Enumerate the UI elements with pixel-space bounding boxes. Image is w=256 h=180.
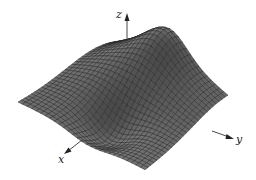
surface-mesh <box>18 27 228 170</box>
x-axis-line <box>68 140 82 151</box>
surface-plot-canvas <box>0 0 256 180</box>
x-axis-label: x <box>58 154 64 165</box>
z-axis-arrowhead-icon <box>125 13 130 21</box>
surface-plot-figure: z y x <box>0 0 256 180</box>
x-axis-arrowhead-icon <box>64 148 72 155</box>
y-axis-arrowhead-icon <box>226 134 235 139</box>
z-axis-label: z <box>116 9 122 20</box>
y-axis-label: y <box>236 134 242 145</box>
